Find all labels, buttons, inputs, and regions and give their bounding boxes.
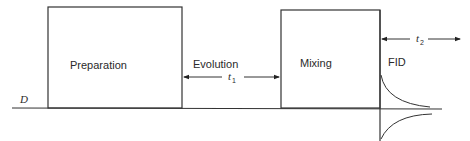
preparation-label: Preparation (70, 59, 127, 71)
fid-decay-lower (381, 114, 432, 139)
mixing-label: Mixing (300, 57, 332, 69)
fid-label: FID (388, 56, 406, 68)
nmr-pulse-sequence-diagram: D Preparation Evolution t 1 Mixing FID t… (0, 0, 470, 141)
baseline-label: D (19, 93, 28, 105)
fid-decay-upper (381, 75, 430, 107)
evolution-label: Evolution (193, 58, 238, 70)
t1-subscript: 1 (232, 77, 236, 84)
t2-subscript: 2 (420, 39, 424, 46)
preparation-block (48, 7, 182, 108)
